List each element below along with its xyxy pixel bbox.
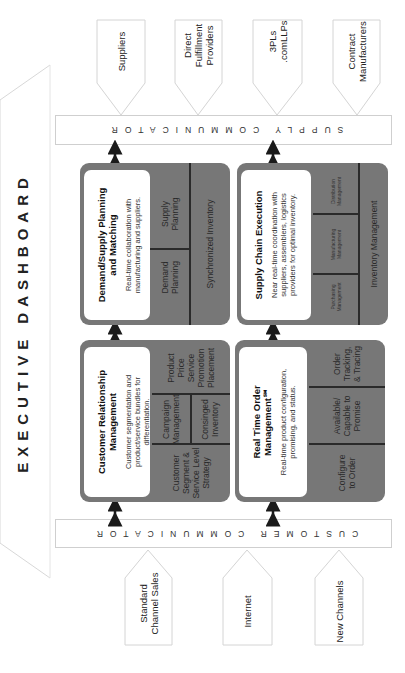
partner-direct-fulfillment-providers: Direct Fulfillment Providers	[175, 8, 222, 83]
diagram-stage: EXECUTIVE DASHBOARD CUSTOMER COMMUNICATO…	[0, 0, 405, 673]
partner-suppliers: Suppliers	[97, 20, 145, 83]
partner-3pls: 3PLs .comLLPs	[253, 0, 302, 83]
partner-contract-manufacturers: Contract Manufacturers	[333, 20, 380, 83]
supply-partner-arrows	[0, 0, 405, 673]
